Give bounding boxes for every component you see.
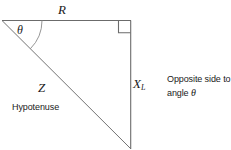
annotation-opposite-side: Opposite side to angle θ	[167, 75, 230, 102]
label-opposite-side-xl: XL	[133, 75, 145, 92]
label-adjacent-side-r: R	[58, 3, 66, 16]
figure-canvas: R θ Z XL Hypotenuse Opposite side to ang…	[0, 0, 231, 149]
label-hypotenuse-z: Z	[38, 81, 45, 94]
angle-arc	[30, 21, 42, 49]
caption-hypotenuse: Hypotenuse	[12, 103, 59, 112]
label-opposite-side-subscript: L	[141, 83, 145, 92]
annotation-theta-icon: θ	[191, 87, 196, 98]
hypotenuse-line	[2, 21, 131, 150]
annotation-line-2: angle θ	[167, 88, 230, 98]
label-angle-theta: θ	[17, 24, 23, 36]
label-opposite-side-base: X	[133, 76, 141, 91]
right-angle-marker	[119, 21, 131, 33]
annotation-line-2-prefix: angle	[167, 88, 191, 98]
annotation-line-1: Opposite side to	[167, 75, 230, 84]
